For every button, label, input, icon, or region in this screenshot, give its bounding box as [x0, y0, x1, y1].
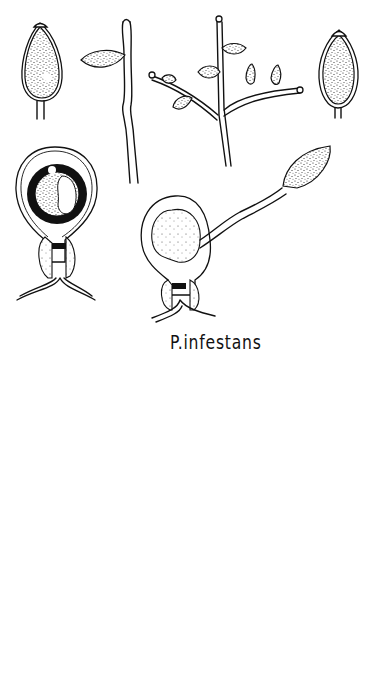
species-label: P.infestans [170, 330, 262, 354]
oospore-with-antheridium-left [16, 147, 97, 300]
sporangium-top-left [22, 23, 62, 119]
sporangiophore-branched [149, 16, 303, 166]
illustration-plate: P.infestans [0, 0, 367, 673]
germinating-oospore-with-germ-sporangium [141, 146, 330, 322]
sporangiophore-simple [81, 20, 138, 184]
sporangium-top-right [319, 30, 358, 118]
